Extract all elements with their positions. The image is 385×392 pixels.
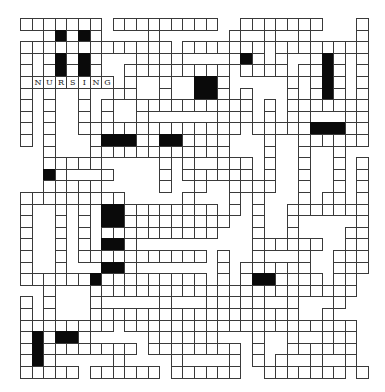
cell-letter: U [44,77,55,88]
grid-cell[interactable] [333,296,346,309]
cell-letter: R [56,77,67,88]
cell-letter: G [102,77,113,88]
grid-cell[interactable] [229,122,242,135]
grid-cell[interactable] [333,366,346,379]
grid-cell[interactable] [206,18,219,31]
grid-cell[interactable] [356,262,369,275]
grid-cell[interactable] [310,238,323,251]
grid-cell[interactable] [229,204,242,217]
grid-cell[interactable] [206,227,219,240]
grid-cell[interactable] [356,134,369,147]
grid-cell[interactable] [229,366,242,379]
grid-cell[interactable] [20,134,33,147]
grid-cell[interactable] [101,169,114,182]
cell-letter: S [67,77,78,88]
grid-cell[interactable] [101,320,114,333]
grid-cell[interactable] [356,366,369,379]
crossword-grid: NURSING [20,18,368,378]
grid-cell[interactable] [124,343,137,356]
grid-cell[interactable] [310,18,323,31]
cell-letter: N [33,77,44,88]
grid-cell[interactable] [217,215,230,228]
grid-cell[interactable] [148,366,161,379]
cell-letter: N [91,77,102,88]
grid-cell[interactable] [264,180,277,193]
grid-cell[interactable] [345,285,358,298]
cell-letter: I [79,77,90,88]
grid-cell[interactable] [194,180,207,193]
grid-cell[interactable] [194,250,207,263]
grid-cell[interactable] [159,180,172,193]
grid-cell[interactable] [66,366,79,379]
